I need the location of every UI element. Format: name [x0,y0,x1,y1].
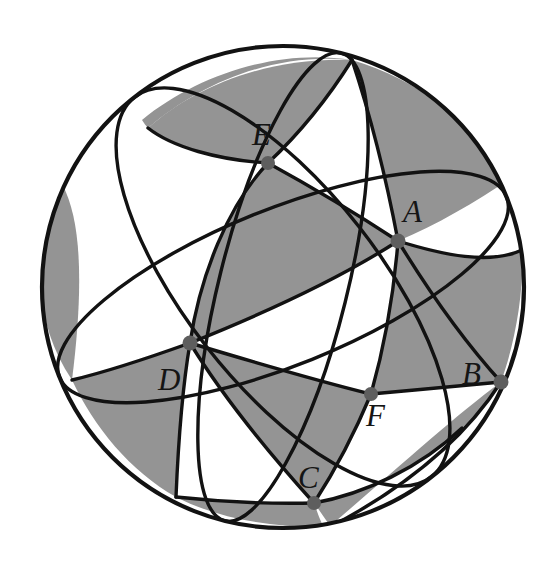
vertex-label-B: B [462,358,481,389]
sphere-figure: E A B F C D [0,0,559,569]
sphere-diagram-svg [0,0,559,569]
vertex-label-A: A [403,196,422,227]
vertex-dot-A [391,234,406,249]
vertex-dot-D [183,336,198,351]
vertex-label-D: D [158,364,180,395]
vertex-label-F: F [366,400,385,431]
vertex-dot-C [307,496,321,510]
vertex-label-C: C [298,462,319,493]
vertex-dot-E [261,156,275,170]
vertex-dot-B [494,375,509,390]
vertex-label-E: E [252,119,271,150]
